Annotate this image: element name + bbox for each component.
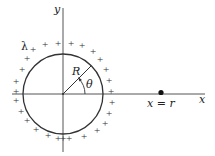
field-point-dot (158, 90, 163, 95)
plus-sign: + (45, 129, 51, 141)
plus-sign: + (90, 45, 96, 57)
radius-label: R (71, 65, 80, 78)
plus-sign: + (33, 123, 39, 135)
angle-label: θ (86, 78, 93, 91)
y-axis-label: y (53, 3, 61, 16)
origin-dot (62, 93, 64, 95)
plus-sign: + (102, 117, 108, 129)
plus-charges: + + + + + + + + + + + + + + + + + + + + … (13, 37, 115, 144)
plus-sign: + (79, 39, 85, 51)
plus-sign: + (81, 130, 87, 142)
plus-sign: + (66, 132, 72, 144)
plus-sign: + (55, 37, 61, 49)
plus-sign: + (68, 37, 74, 49)
charged-ring-diagram: y x λ R θ x = r + + + + + + + + + + + + … (0, 0, 215, 156)
plus-sign: + (94, 124, 100, 136)
plus-sign: + (30, 43, 36, 55)
field-point-label: x = r (147, 97, 175, 110)
plus-sign: + (24, 114, 30, 126)
plus-sign: + (19, 63, 25, 75)
plus-sign: + (42, 38, 48, 50)
x-axis-label: x (199, 93, 206, 106)
